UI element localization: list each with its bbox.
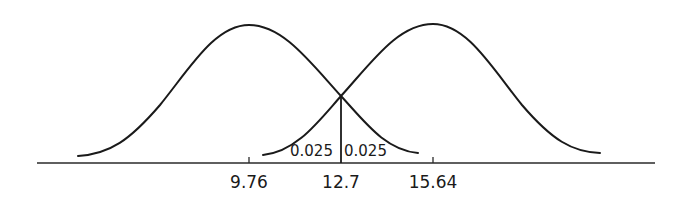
left-normal-curve xyxy=(78,25,418,156)
right-tail-area-label: 0.025 xyxy=(344,142,387,160)
tick-label-15-64: 15.64 xyxy=(409,172,458,192)
left-tail-area-label: 0.025 xyxy=(290,142,333,160)
tick-label-12-7: 12.7 xyxy=(322,172,360,192)
diagram-canvas: 0.025 0.025 9.76 12.7 15.64 xyxy=(0,0,684,197)
right-normal-curve xyxy=(263,24,600,155)
tick-label-9-76: 9.76 xyxy=(230,172,268,192)
diagram-svg xyxy=(0,0,684,197)
